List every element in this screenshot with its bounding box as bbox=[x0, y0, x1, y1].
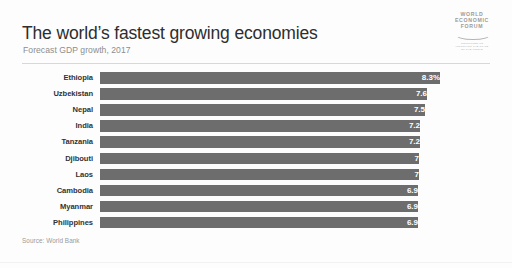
bar-track: 7.2 bbox=[100, 136, 490, 148]
bar-track: 8.3% bbox=[100, 72, 490, 84]
bar-row: Tanzania7.2 bbox=[0, 136, 512, 148]
bar-row: India7.2 bbox=[0, 120, 512, 132]
bar-category-label: Laos bbox=[0, 169, 93, 181]
bar-value-label: 6.9 bbox=[100, 201, 422, 213]
bar-category-label: India bbox=[0, 120, 93, 132]
wef-logo-tagline: COMMITTED TO IMPROVING THE STATE OF THE … bbox=[446, 42, 498, 52]
bar-row: Cambodia6.9 bbox=[0, 185, 512, 197]
bar-category-label: Philippines bbox=[0, 217, 93, 229]
bar-category-label: Myanmar bbox=[0, 201, 93, 213]
page-title: The world’s fastest growing economies bbox=[22, 23, 318, 43]
wef-logo-mark: WORLD ECONOMIC FORUM bbox=[446, 11, 498, 38]
footer-divider bbox=[0, 262, 512, 263]
wef-logo-arc-icon bbox=[455, 29, 491, 40]
bar-value-label: 6.9 bbox=[100, 185, 422, 197]
bar-category-label: Djibouti bbox=[0, 153, 93, 165]
bar-value-label: 7.2 bbox=[100, 120, 424, 132]
wef-logo: WORLD ECONOMIC FORUM COMMITTED TO IMPROV… bbox=[446, 11, 498, 53]
page-subtitle: Forecast GDP growth, 2017 bbox=[23, 45, 131, 56]
bar-value-label: 7.2 bbox=[100, 136, 424, 148]
bar-row: Myanmar6.9 bbox=[0, 201, 512, 213]
slide-header: The world’s fastest growing economies Fo… bbox=[0, 0, 512, 64]
bar-category-label: Ethiopia bbox=[0, 72, 93, 84]
bar-category-label: Nepal bbox=[0, 104, 93, 116]
bar-track: 7.5 bbox=[100, 104, 490, 116]
bar-value-label: 6.9 bbox=[100, 217, 422, 229]
wef-tagline-line-3: OF THE WORLD bbox=[446, 48, 498, 51]
bar-row: Philippines6.9 bbox=[0, 217, 512, 229]
bar-track: 6.9 bbox=[100, 201, 490, 213]
bar-track: 7 bbox=[100, 169, 490, 181]
bar-value-label: 7.5 bbox=[100, 104, 429, 116]
bar-track: 7.2 bbox=[100, 120, 490, 132]
bar-category-label: Tanzania bbox=[0, 136, 93, 148]
bar-row: Uzbekistan7.6 bbox=[0, 88, 512, 100]
bar-track: 7.6 bbox=[100, 88, 490, 100]
bar-row: Djibouti7 bbox=[0, 153, 512, 165]
bar-value-label: 7 bbox=[100, 169, 423, 181]
bar-category-label: Cambodia bbox=[0, 185, 93, 197]
bar-chart: Ethiopia8.3%Uzbekistan7.6Nepal7.5India7.… bbox=[0, 72, 512, 224]
bar-track: 7 bbox=[100, 153, 490, 165]
bar-value-label: 8.3% bbox=[100, 72, 444, 84]
bar-value-label: 7.6 bbox=[100, 88, 431, 100]
bar-value-label: 7 bbox=[100, 153, 423, 165]
bar-row: Ethiopia8.3% bbox=[0, 72, 512, 84]
bar-row: Nepal7.5 bbox=[0, 104, 512, 116]
bar-category-label: Uzbekistan bbox=[0, 88, 93, 100]
slide-canvas: The world’s fastest growing economies Fo… bbox=[0, 0, 512, 268]
header-divider bbox=[22, 63, 490, 64]
bar-row: Laos7 bbox=[0, 169, 512, 181]
bar-track: 6.9 bbox=[100, 217, 490, 229]
source-note: Source: World Bank bbox=[22, 237, 80, 244]
bar-track: 6.9 bbox=[100, 185, 490, 197]
